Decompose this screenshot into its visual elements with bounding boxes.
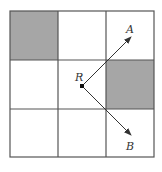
shaded-cell-middle-right — [106, 60, 154, 109]
point-R: R — [74, 71, 84, 88]
label-A: A — [125, 23, 134, 36]
shaded-cell-top-left — [10, 11, 58, 60]
label-B: B — [125, 140, 134, 153]
grid-vector-diagram: A B R — [0, 0, 162, 172]
point-R-marker — [80, 84, 84, 88]
label-R: R — [74, 71, 83, 84]
